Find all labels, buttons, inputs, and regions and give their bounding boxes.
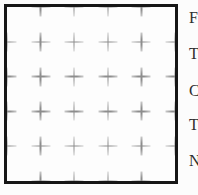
fiducial-cross (7, 137, 17, 156)
fiducial-cross (98, 7, 117, 17)
fiducial-cross (65, 7, 84, 17)
fiducial-cross (166, 102, 176, 121)
fiducial-cross (98, 32, 117, 51)
fiducial-cross (65, 102, 84, 121)
fiducial-cross (166, 32, 176, 51)
fiducial-cross (65, 32, 84, 51)
fiducial-cross (31, 67, 50, 86)
fiducial-cross (65, 67, 84, 86)
fiducial-cross (98, 137, 117, 156)
fiducial-cross (132, 172, 151, 182)
fiducial-cross (31, 7, 50, 17)
fiducial-cross (65, 137, 84, 156)
fiducial-cross (31, 137, 50, 156)
fiducial-cross (132, 137, 151, 156)
fiducial-cross (98, 67, 117, 86)
fiducial-cross (132, 32, 151, 51)
text-line-fragment-2: T (189, 46, 198, 62)
fiducial-cross (65, 172, 84, 182)
fiducial-cross (31, 32, 50, 51)
fiducial-cross (98, 102, 117, 121)
fiducial-cross (132, 67, 151, 86)
fiducial-cross (132, 102, 151, 121)
calibration-square (4, 4, 178, 184)
fiducial-cross (7, 102, 17, 121)
fiducial-cross (166, 137, 176, 156)
fiducial-cross (7, 67, 17, 86)
text-line-fragment-1: F (189, 10, 198, 26)
text-line-fragment-4: T (189, 117, 198, 133)
text-line-fragment-5: N (189, 153, 198, 169)
fiducial-cross (98, 172, 117, 182)
fiducial-cross (166, 67, 176, 86)
fiducial-cross (132, 7, 151, 17)
fiducial-cross (7, 32, 17, 51)
fiducial-cross (31, 172, 50, 182)
text-line-fragment-3: C (189, 83, 198, 99)
fiducial-grid (7, 7, 175, 181)
fiducial-cross (31, 102, 50, 121)
